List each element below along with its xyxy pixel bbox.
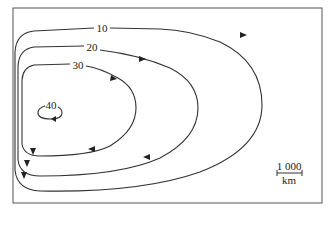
arrow-icon [143, 154, 150, 160]
scale-bar-unit: km [282, 174, 297, 186]
arrow-icon [30, 148, 36, 155]
contour-label-20: 20 [87, 41, 99, 53]
arrow-icon [139, 56, 146, 62]
arrow-icon [88, 146, 95, 152]
scale-bar-value: 1 000 [277, 160, 302, 172]
contour-diagram: 10 20 30 40 1 000 km [0, 0, 331, 228]
contour-label-40: 40 [46, 99, 58, 111]
scale-bar: 1 000 km [277, 160, 302, 186]
contour-label-30: 30 [73, 59, 85, 71]
arrow-icon [24, 160, 30, 167]
arrow-icon [51, 116, 56, 122]
contour-label-10: 10 [97, 22, 109, 34]
arrow-icon [240, 32, 247, 38]
diagram-frame [13, 8, 322, 203]
